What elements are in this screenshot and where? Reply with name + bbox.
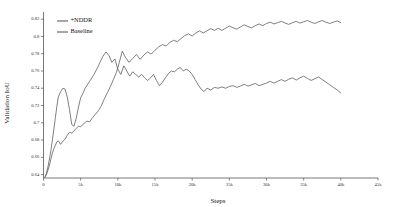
x-tick-label: 5k bbox=[78, 182, 83, 187]
validation-iou-line-chart: 0.640.660.680.70.720.740.760.780.80.82 0… bbox=[0, 0, 396, 207]
x-tick-label: 15k bbox=[152, 182, 160, 187]
y-tick-label: 0.82 bbox=[31, 16, 40, 21]
series-line-nddr bbox=[45, 20, 341, 177]
series-lines bbox=[45, 20, 341, 177]
y-tick-label: 0.66 bbox=[31, 154, 40, 159]
chart-legend: +NDDRBaseline bbox=[57, 16, 93, 34]
x-axis-title: Steps bbox=[210, 197, 225, 205]
y-axis: 0.640.660.680.70.720.740.760.780.80.82 bbox=[31, 12, 43, 178]
x-tick-label: 40k bbox=[337, 182, 345, 187]
x-tick-label: 25k bbox=[226, 182, 234, 187]
series-line-baseline bbox=[45, 52, 341, 177]
x-tick-label: 20k bbox=[189, 182, 197, 187]
y-tick-label: 0.8 bbox=[34, 34, 40, 39]
x-tick-label: 45k bbox=[375, 182, 383, 187]
legend-label: +NDDR bbox=[71, 16, 93, 23]
y-tick-label: 0.64 bbox=[31, 172, 40, 177]
y-tick-label: 0.78 bbox=[31, 51, 40, 56]
y-tick-label: 0.68 bbox=[31, 137, 40, 142]
y-tick-label: 0.7 bbox=[34, 120, 40, 125]
x-tick-label: 35k bbox=[300, 182, 308, 187]
y-axis-title: Validation IoU bbox=[3, 82, 11, 123]
y-tick-label: 0.74 bbox=[31, 85, 40, 90]
legend-label: Baseline bbox=[71, 27, 93, 34]
x-axis: 05k10k15k20k25k30k35k40k45k bbox=[42, 178, 382, 187]
x-tick-label: 0 bbox=[42, 182, 45, 187]
x-tick-label: 30k bbox=[263, 182, 271, 187]
chart-canvas: 0.640.660.680.70.720.740.760.780.80.82 0… bbox=[0, 0, 396, 207]
y-tick-label: 0.76 bbox=[31, 68, 40, 73]
x-tick-label: 10k bbox=[114, 182, 122, 187]
y-tick-label: 0.72 bbox=[31, 103, 40, 108]
